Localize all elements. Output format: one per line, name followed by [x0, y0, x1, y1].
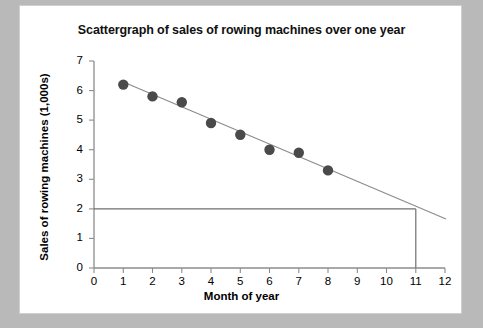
y-tick-label-0: 0 — [59, 261, 83, 273]
y-tick-label-5: 5 — [59, 113, 83, 125]
x-tick-marks — [94, 268, 445, 273]
x-tick-label-7: 7 — [287, 275, 311, 287]
data-point — [206, 118, 216, 128]
y-tick-marks — [89, 61, 94, 268]
chart-figure: Scattergraph of sales of rowing machines… — [19, 5, 462, 314]
x-tick-label-10: 10 — [375, 275, 399, 287]
data-point — [147, 91, 157, 101]
y-tick-label-1: 1 — [59, 231, 83, 243]
data-point — [323, 165, 333, 175]
y-tick-label-2: 2 — [59, 202, 83, 214]
y-axis-title: Sales of rowing machines (1,000s) — [38, 57, 50, 277]
x-tick-label-9: 9 — [345, 275, 369, 287]
plot-canvas — [20, 6, 463, 315]
data-point — [177, 97, 187, 107]
x-tick-label-4: 4 — [199, 275, 223, 287]
x-tick-label-3: 3 — [170, 275, 194, 287]
x-tick-label-12: 12 — [433, 275, 457, 287]
x-tick-label-5: 5 — [228, 275, 252, 287]
x-tick-label-0: 0 — [82, 275, 106, 287]
data-point — [294, 148, 304, 158]
y-tick-label-3: 3 — [59, 172, 83, 184]
x-tick-label-11: 11 — [404, 275, 428, 287]
x-axis-title: Month of year — [20, 290, 463, 302]
data-point — [264, 145, 274, 155]
x-tick-label-6: 6 — [258, 275, 282, 287]
trend-line — [121, 81, 446, 219]
data-point — [235, 130, 245, 140]
plot-area: 0 1 2 3 4 5 6 7 0 1 2 3 4 5 6 7 8 9 10 1… — [20, 6, 463, 315]
y-tick-label-4: 4 — [59, 143, 83, 155]
x-tick-label-1: 1 — [111, 275, 135, 287]
x-tick-label-2: 2 — [141, 275, 165, 287]
y-tick-label-6: 6 — [59, 84, 83, 96]
y-tick-label-7: 7 — [59, 54, 83, 66]
data-point-group — [118, 79, 333, 175]
x-tick-label-8: 8 — [316, 275, 340, 287]
data-point — [118, 79, 128, 89]
